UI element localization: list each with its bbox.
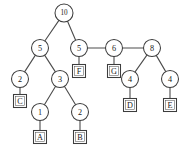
tree-node-internal-n6[interactable]: 6 (106, 40, 123, 57)
tree-edge-n3-n2b (64, 86, 75, 104)
node-weight-label: 6 (112, 44, 116, 53)
tree-node-internal-n8[interactable]: 8 (144, 40, 161, 57)
tree-edge-n8-n4a (135, 55, 147, 72)
tree-edge-n5a-n2a (25, 55, 36, 72)
tree-edge-n5a-n3 (45, 55, 56, 72)
node-weight-label: 5 (38, 44, 42, 53)
tree-node-internal-n4a[interactable]: 4 (122, 71, 139, 88)
node-weight-label: 8 (150, 44, 154, 53)
tree-edge-n10-n5a (45, 20, 59, 41)
tree-node-internal-n1[interactable]: 1 (32, 104, 49, 121)
leaf-symbol-label: A (37, 133, 43, 142)
tree-node-internal-n5a[interactable]: 5 (32, 40, 49, 57)
leaf-symbol-label: F (77, 67, 82, 76)
huffman-tree-figure: 105568234412FGCDEAB (0, 0, 190, 160)
tree-node-leaf-lF[interactable]: F (73, 65, 86, 78)
node-weight-label: 5 (77, 44, 81, 53)
tree-node-leaf-lC[interactable]: C (14, 95, 27, 108)
leaf-symbol-label: C (17, 97, 23, 106)
tree-node-internal-n2a[interactable]: 2 (12, 71, 29, 88)
tree-node-internal-n4b[interactable]: 4 (162, 71, 179, 88)
tree-node-leaf-lB[interactable]: B (74, 131, 87, 144)
leaf-symbol-label: D (127, 101, 133, 110)
node-weight-label: 2 (18, 75, 22, 84)
tree-node-internal-n10[interactable]: 10 (55, 4, 73, 22)
tree-node-internal-n5b[interactable]: 5 (71, 40, 88, 57)
tree-node-internal-n3[interactable]: 3 (52, 71, 69, 88)
leaf-symbol-label: B (77, 133, 83, 142)
tree-node-leaf-lD[interactable]: D (124, 99, 137, 112)
leaf-symbol-label: E (167, 101, 172, 110)
node-layer: 105568234412FGCDEAB (12, 4, 179, 144)
tree-edge-n10-n5b (68, 21, 76, 40)
node-weight-label: 1 (38, 108, 42, 117)
node-weight-label: 3 (58, 75, 62, 84)
node-weight-label: 4 (128, 75, 132, 84)
tree-edge-n8-n4b (156, 55, 165, 71)
tree-node-leaf-lE[interactable]: E (164, 99, 177, 112)
tree-node-internal-n2b[interactable]: 2 (72, 104, 89, 121)
node-weight-label: 2 (78, 108, 82, 117)
tree-node-leaf-lA[interactable]: A (34, 131, 47, 144)
leaf-symbol-label: G (111, 67, 117, 76)
tree-edge-n3-n1 (44, 86, 55, 104)
tree-canvas: 105568234412FGCDEAB (0, 0, 190, 160)
node-weight-label: 4 (168, 75, 172, 84)
node-weight-label: 10 (60, 9, 68, 17)
tree-node-leaf-lG[interactable]: G (108, 65, 121, 78)
